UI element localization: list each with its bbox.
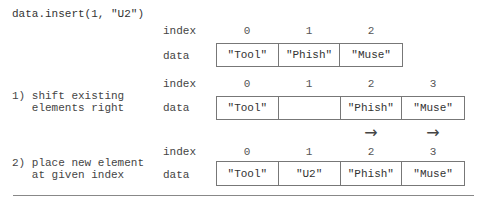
list-inserted: "Tool" "U2" "Phish" "Muse": [216, 161, 465, 186]
data-label: data: [163, 102, 189, 114]
index-label: index: [163, 25, 196, 37]
list-cell: "Phish": [279, 44, 341, 66]
shift-arrows: → →: [216, 125, 464, 141]
list-cell-new: "U2": [279, 162, 341, 185]
arrow-right-icon: [216, 125, 278, 141]
list-cell: "Muse": [402, 97, 464, 119]
step-2-line-2: at given index: [12, 169, 124, 181]
index-value: 0: [216, 25, 278, 37]
step-1-line-2: elements right: [12, 102, 124, 114]
index-value: 1: [278, 25, 340, 37]
list-cell: "Muse": [402, 162, 464, 185]
index-label: index: [163, 146, 196, 158]
step-1-line-1: 1) shift existing: [12, 90, 124, 102]
index-row: 0 1 2 3: [216, 146, 464, 158]
index-row: 0 1 2: [216, 25, 402, 37]
step-2-line-1: 2) place new element: [12, 157, 144, 169]
index-value: 2: [340, 146, 402, 158]
code-statement: data.insert(1, "U2"): [12, 8, 144, 20]
list-cell: "Phish": [341, 97, 403, 119]
data-label: data: [163, 169, 189, 181]
index-value: 3: [402, 146, 464, 158]
list-cell: "Muse": [340, 44, 402, 66]
index-row: 0 1 2 3: [216, 78, 464, 90]
arrow-right-icon: [278, 125, 340, 141]
index-value: 0: [216, 146, 278, 158]
index-value: 3: [402, 78, 464, 90]
list-original: "Tool" "Phish" "Muse": [216, 43, 403, 67]
data-label: data: [163, 50, 189, 62]
index-value: 1: [278, 146, 340, 158]
divider: [13, 195, 474, 196]
index-label: index: [163, 78, 196, 90]
list-cell-empty: [279, 97, 341, 119]
index-value: 2: [340, 78, 402, 90]
list-cell: "Tool": [217, 97, 279, 119]
list-cell: "Tool": [217, 44, 279, 66]
index-value: 1: [278, 78, 340, 90]
arrow-right-icon: →: [340, 125, 402, 141]
index-value: 2: [340, 25, 402, 37]
arrow-right-icon: →: [402, 125, 464, 141]
list-cell: "Tool": [217, 162, 279, 185]
list-cell: "Phish": [341, 162, 403, 185]
list-shifted: "Tool" "Phish" "Muse": [216, 96, 465, 120]
index-value: 0: [216, 78, 278, 90]
